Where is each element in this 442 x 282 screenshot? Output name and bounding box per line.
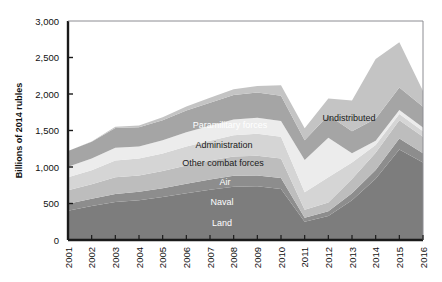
y-tick-label: 3,000 <box>35 16 59 27</box>
y-axis-title: Billions of 2014 rubles <box>14 83 24 179</box>
x-tick-label: 2001 <box>63 247 74 268</box>
x-tick-label: 2006 <box>181 247 192 268</box>
chart-figure: 05001,0001,5002,0002,5003,000 2001200220… <box>0 0 442 282</box>
x-tick-label: 2004 <box>134 247 145 268</box>
series-label-land: Land <box>212 218 232 228</box>
y-tick-label: 2,500 <box>35 52 59 63</box>
y-tick-label: 0 <box>54 235 59 246</box>
y-tick-label: 1,000 <box>35 162 59 173</box>
series-label-paramilitary-forces: Paramilitary forces <box>193 120 268 130</box>
series-label-administration: Administration <box>195 140 252 150</box>
x-tick-label: 2003 <box>110 247 121 268</box>
y-tick-label: 2,000 <box>35 89 59 100</box>
x-tick-label: 2015 <box>394 247 405 268</box>
x-tick-label: 2010 <box>276 247 287 268</box>
x-tick-label: 2012 <box>323 247 334 268</box>
stacked-area-chart: 05001,0001,5002,0002,5003,000 2001200220… <box>0 0 442 282</box>
series-label-naval: Naval <box>210 197 233 207</box>
y-axis-label: Billions of 2014 rubles <box>14 83 24 179</box>
x-tick-label: 2005 <box>157 247 168 268</box>
x-tick-label: 2014 <box>370 247 381 268</box>
x-tick-label: 2009 <box>252 247 263 268</box>
x-tick-label: 2007 <box>205 247 216 268</box>
x-tick-label: 2013 <box>347 247 358 268</box>
x-tick-label: 2016 <box>418 247 429 268</box>
y-tick-label: 1,500 <box>35 125 59 136</box>
x-tick-label: 2002 <box>86 247 97 268</box>
series-label-undistributed: Undistributed <box>322 113 375 123</box>
series-label-other-combat-forces: Other combat forces <box>182 158 264 168</box>
series-label-air: Air <box>220 177 231 187</box>
y-tick-label: 500 <box>43 198 59 209</box>
x-tick-label: 2011 <box>299 247 310 267</box>
x-tick-label: 2008 <box>228 247 239 268</box>
